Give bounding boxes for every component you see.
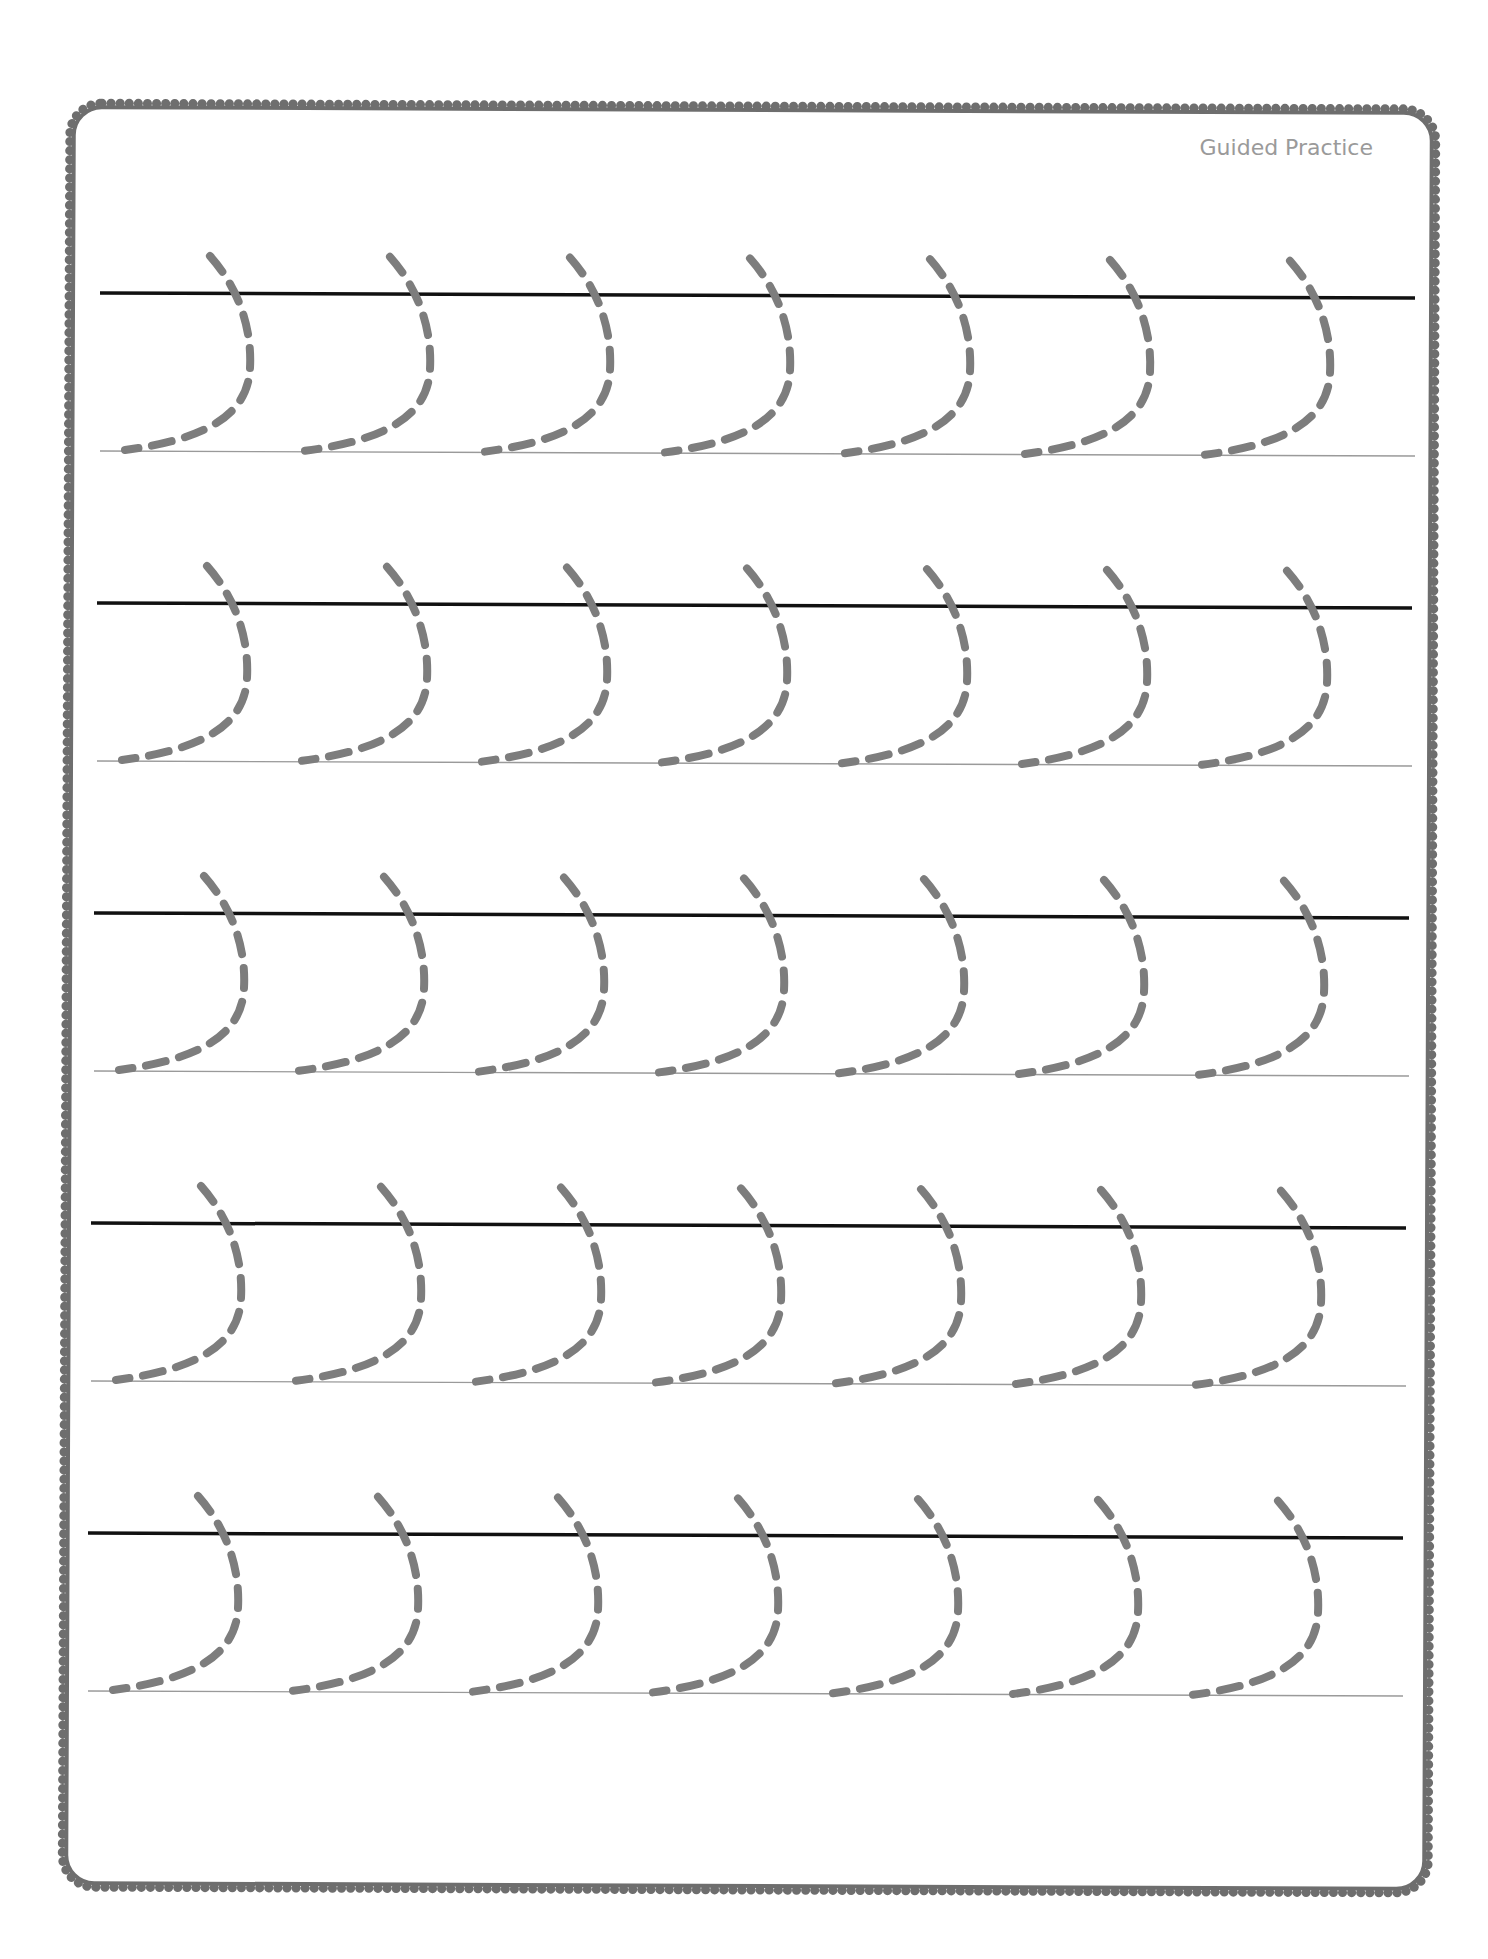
- scalloped-frame: [62, 103, 1436, 1893]
- tracing-stroke[interactable]: [296, 1187, 421, 1381]
- headline: [91, 1223, 1406, 1228]
- tracing-stroke[interactable]: [1022, 570, 1147, 764]
- worksheet-label: Guided Practice: [1200, 135, 1373, 160]
- tracing-stroke[interactable]: [1193, 1501, 1318, 1695]
- tracing-stroke[interactable]: [473, 1498, 598, 1692]
- practice-row: [100, 256, 1415, 456]
- tracing-stroke[interactable]: [836, 1189, 961, 1383]
- tracing-stroke[interactable]: [839, 879, 964, 1073]
- tracing-stroke[interactable]: [113, 1496, 238, 1690]
- tracing-stroke[interactable]: [665, 258, 790, 452]
- headline: [94, 913, 1409, 918]
- tracing-stroke[interactable]: [479, 878, 604, 1072]
- tracing-stroke[interactable]: [1205, 261, 1330, 455]
- practice-row: [91, 1186, 1406, 1386]
- tracing-stroke[interactable]: [1013, 1500, 1138, 1694]
- tracing-stroke[interactable]: [476, 1188, 601, 1382]
- tracing-stroke[interactable]: [1199, 881, 1324, 1075]
- tracing-stroke[interactable]: [662, 568, 787, 762]
- tracing-stroke[interactable]: [1019, 880, 1144, 1074]
- practice-row: [88, 1496, 1403, 1696]
- practice-row: [97, 566, 1412, 766]
- tracing-stroke[interactable]: [125, 256, 250, 450]
- tracing-stroke[interactable]: [653, 1498, 778, 1692]
- tracing-stroke[interactable]: [299, 877, 424, 1071]
- tracing-stroke[interactable]: [833, 1499, 958, 1693]
- tracing-stroke[interactable]: [656, 1188, 781, 1382]
- headline: [88, 1533, 1403, 1538]
- headline: [97, 603, 1412, 608]
- tracing-stroke[interactable]: [1202, 571, 1327, 765]
- tracing-stroke[interactable]: [293, 1497, 418, 1691]
- tracing-stroke[interactable]: [845, 259, 970, 453]
- tracing-stroke[interactable]: [305, 257, 430, 451]
- headline: [100, 293, 1415, 298]
- tracing-stroke[interactable]: [1025, 260, 1150, 454]
- tracing-stroke[interactable]: [482, 568, 607, 762]
- tracing-stroke[interactable]: [116, 1186, 241, 1380]
- worksheet-page: Guided Practice: [0, 0, 1488, 1959]
- tracing-stroke[interactable]: [842, 569, 967, 763]
- tracing-stroke[interactable]: [122, 566, 247, 760]
- tracing-stroke[interactable]: [302, 567, 427, 761]
- tracing-stroke[interactable]: [119, 876, 244, 1070]
- tracing-stroke[interactable]: [1196, 1191, 1321, 1385]
- tracing-stroke[interactable]: [1016, 1190, 1141, 1384]
- practice-row: [94, 876, 1409, 1076]
- tracing-stroke[interactable]: [659, 878, 784, 1072]
- practice-rows: [88, 256, 1415, 1696]
- tracing-stroke[interactable]: [485, 258, 610, 452]
